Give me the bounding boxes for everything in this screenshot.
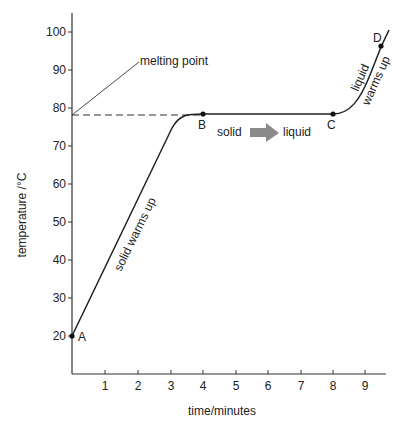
y-tick-label: 60	[53, 177, 67, 191]
x-tick-labels: 1 2 3 4 5 6 7 8 9	[102, 379, 369, 393]
x-tick-label: 1	[102, 379, 109, 393]
x-axis-title: time/minutes	[188, 404, 256, 418]
y-tick-label: 40	[53, 253, 67, 267]
y-tick-label: 70	[53, 139, 67, 153]
solid-warms-up-label: solid warms up	[111, 195, 159, 273]
point-c-marker	[330, 111, 335, 116]
y-tick-label: 80	[53, 101, 67, 115]
point-a-label: A	[78, 330, 86, 344]
x-tick-label: 6	[265, 379, 272, 393]
point-b-label: B	[198, 118, 206, 132]
point-b-marker	[200, 111, 205, 116]
x-tick-label: 5	[233, 379, 240, 393]
y-tick-label: 100	[46, 25, 66, 39]
point-a-marker	[69, 333, 74, 338]
point-d-label: D	[373, 31, 382, 45]
y-tick-labels: 100 90 80 70 60 50 40 30 20	[46, 25, 66, 343]
y-tick-label: 30	[53, 291, 67, 305]
melting-point-label: melting point	[140, 54, 209, 68]
x-tick-label: 7	[298, 379, 305, 393]
solid-label: solid	[217, 125, 242, 139]
x-tick-label: 8	[330, 379, 337, 393]
arrow-right-icon	[250, 123, 279, 142]
heating-curve	[72, 30, 389, 336]
heating-curve-chart: 100 90 80 70 60 50 40 30 20 1 2 3 4 5 6 …	[0, 0, 403, 424]
x-tick-label: 4	[200, 379, 207, 393]
x-tick-label: 9	[362, 379, 369, 393]
point-c-label: C	[327, 118, 336, 132]
melting-point-leader	[72, 62, 139, 115]
y-axis-title: temperature /°C	[15, 172, 29, 257]
liquid-label: liquid	[283, 125, 311, 139]
y-tick-label: 20	[53, 329, 67, 343]
x-tick-label: 3	[168, 379, 175, 393]
y-tick-label: 90	[53, 63, 67, 77]
x-tick-label: 2	[135, 379, 142, 393]
y-tick-label: 50	[53, 215, 67, 229]
